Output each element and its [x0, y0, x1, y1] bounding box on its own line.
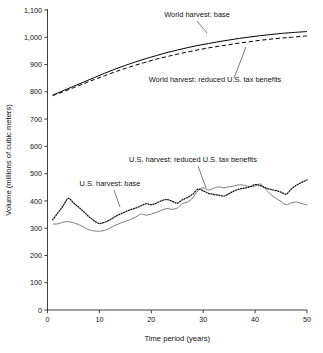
x-tick-label: 50: [303, 315, 311, 324]
series-line-0: [53, 32, 307, 96]
series-line-1: [53, 36, 307, 96]
x-tick-label: 20: [147, 315, 155, 324]
data-series-group: [53, 32, 307, 232]
series-annotations: World harvest: baseWorld harvest: reduce…: [80, 10, 282, 207]
y-tick-label: 700: [30, 115, 42, 124]
y-axis-title: Volume (millions of cubic meters): [4, 104, 13, 216]
y-tick-label: 1,000: [24, 33, 42, 42]
x-tick-label: 30: [199, 315, 207, 324]
series-label-leader-3: [114, 190, 120, 207]
y-tick-label: 800: [30, 87, 42, 96]
y-tick-label: 100: [30, 278, 42, 287]
series-label-2: U.S. harvest: reduced U.S. tax benefits: [129, 155, 257, 164]
x-tick-label: 40: [251, 315, 259, 324]
series-label-1: World harvest: reduced U.S. tax benefits: [149, 75, 282, 84]
line-chart: 01002003004005006007008009001,0001,100 0…: [0, 0, 323, 353]
y-tick-label: 200: [30, 251, 42, 260]
series-label-leader-0: [197, 21, 207, 33]
x-tick-label: 0: [46, 315, 50, 324]
y-tick-label: 400: [30, 197, 42, 206]
y-axis-ticks: 01002003004005006007008009001,0001,100: [24, 6, 48, 315]
y-tick-label: 500: [30, 169, 42, 178]
series-line-2: [53, 184, 307, 231]
x-axis-title: Time period (years): [144, 334, 210, 343]
series-label-leader-1: [234, 47, 246, 78]
y-tick-label: 300: [30, 224, 42, 233]
y-tick-label: 600: [30, 142, 42, 151]
x-tick-label: 10: [95, 315, 103, 324]
y-tick-label: 1,100: [24, 6, 42, 15]
series-label-3: U.S. harvest: base: [80, 179, 141, 188]
x-axis-ticks: 01020304050: [46, 310, 312, 324]
series-label-0: World harvest: base: [164, 10, 230, 19]
chart-container: 01002003004005006007008009001,0001,100 0…: [0, 0, 323, 353]
series-label-leader-2: [198, 166, 206, 188]
y-tick-label: 900: [30, 60, 42, 69]
y-tick-label: 0: [38, 306, 42, 315]
